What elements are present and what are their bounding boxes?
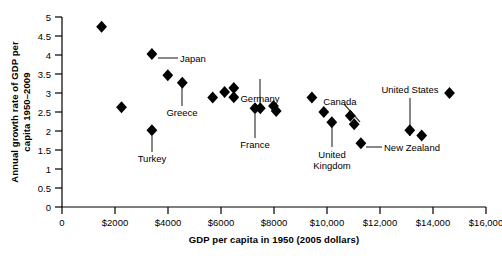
annotation-label-united-states: United States	[381, 84, 438, 95]
y-tick-label: 3.5	[38, 69, 51, 80]
annotation-leader-lines	[152, 58, 410, 152]
data-point-united-states	[444, 87, 455, 99]
data-point	[228, 91, 239, 103]
y-axis-title-line-2: capita 1950–2009	[21, 72, 32, 151]
annotation-label-united-kingdom-line-2: Kingdom	[313, 160, 351, 171]
data-point-turkey	[147, 124, 158, 136]
y-tick-label: 1.5	[38, 145, 51, 156]
annotation-label-new-zealand: New Zealand	[384, 142, 440, 153]
y-tick-labels: 0 0.5 1 1.5 2 2.5 3 3.5 4 4.5 5	[38, 12, 51, 213]
data-point	[207, 92, 218, 104]
data-point	[416, 130, 427, 142]
x-tick-labels: 0 $2000 $4000 $6000 $8000 $10,000 $12,00…	[59, 217, 502, 228]
data-point	[318, 106, 329, 118]
y-tick-label: 1	[46, 164, 51, 175]
annotation-label-germany: Germany	[240, 93, 279, 104]
x-axis-title: GDP per capita in 1950 (2005 dollars)	[189, 234, 359, 245]
annotation-label-japan: Japan	[180, 53, 206, 64]
x-tick-marks	[62, 207, 486, 214]
x-tick-label: $14,000	[416, 217, 450, 228]
y-tick-label: 0.5	[38, 183, 51, 194]
chart-canvas: 0 0.5 1 1.5 2 2.5 3 3.5 4 4.5 5 0	[0, 0, 502, 262]
annotation-label-france: France	[240, 139, 270, 150]
x-tick-label: 0	[59, 217, 64, 228]
annotation-label-united-kingdom-line-1: United	[318, 149, 345, 160]
x-tick-label: $10,000	[310, 217, 344, 228]
y-tick-label: 2	[46, 126, 51, 137]
data-point	[219, 86, 230, 98]
annotation-label-turkey: Turkey	[138, 153, 167, 164]
y-tick-marks	[55, 17, 62, 207]
x-tick-label: $2000	[102, 217, 128, 228]
data-point	[404, 124, 415, 136]
y-tick-label: 2.5	[38, 107, 51, 118]
y-tick-label: 4	[46, 50, 51, 61]
data-point-greece	[177, 77, 188, 89]
data-point-new-zealand	[356, 137, 367, 149]
x-tick-label: $8000	[261, 217, 287, 228]
data-point	[162, 69, 173, 81]
scatter-chart-figure: 0 0.5 1 1.5 2 2.5 3 3.5 4 4.5 5 0	[0, 0, 502, 262]
y-tick-label: 3	[46, 88, 51, 99]
annotation-label-greece: Greece	[166, 107, 197, 118]
x-tick-label: $4000	[155, 217, 181, 228]
x-tick-label: $16,000	[469, 217, 502, 228]
data-point	[116, 101, 127, 113]
x-tick-label: $12,000	[363, 217, 397, 228]
y-axis-title-line-1: Annual growth rate of GDP per	[9, 41, 20, 183]
y-tick-label: 0	[46, 202, 51, 213]
data-point	[96, 21, 107, 33]
data-point	[307, 92, 318, 104]
data-point-japan	[147, 48, 158, 60]
y-tick-label: 4.5	[38, 31, 51, 42]
y-tick-label: 5	[46, 12, 51, 23]
x-tick-label: $6000	[208, 217, 234, 228]
annotation-labels: Japan Greece Germany France Turkey Canad…	[138, 53, 440, 172]
annotation-label-canada: Canada	[323, 96, 357, 107]
data-point-united-kingdom	[326, 116, 337, 128]
